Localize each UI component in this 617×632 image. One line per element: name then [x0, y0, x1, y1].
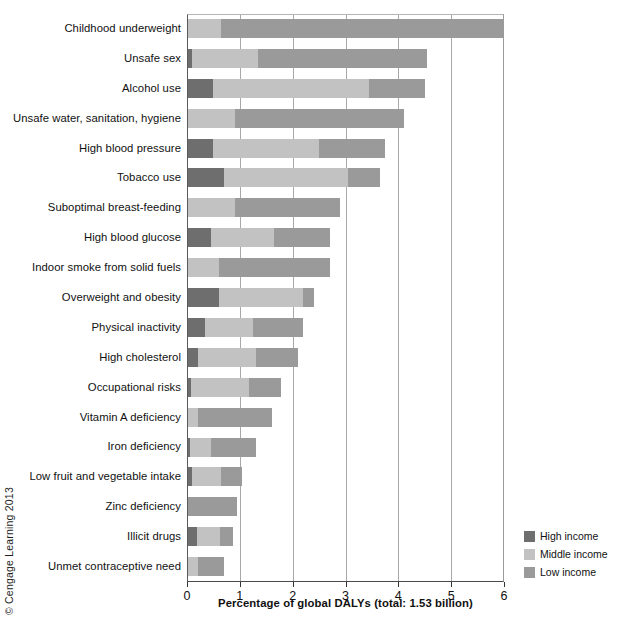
category-label: Childhood underweight [0, 22, 181, 35]
x-tick-4 [398, 582, 399, 587]
category-label: Unmet contraceptive need [0, 560, 181, 573]
legend: High incomeMiddle incomeLow income [524, 528, 614, 582]
legend-swatch-icon [524, 567, 535, 578]
legend-label: Middle income [540, 548, 608, 560]
category-label: High cholesterol [0, 351, 181, 364]
x-tick-3 [346, 582, 347, 587]
plot-area: 0123456 [187, 14, 504, 582]
category-label: Low fruit and vegetable intake [0, 470, 181, 483]
legend-label: High income [540, 530, 598, 542]
category-label: Zinc deficiency [0, 500, 181, 513]
legend-item[interactable]: Low income [524, 564, 614, 580]
x-axis-title: Percentage of global DALYs (total: 1.53 … [187, 597, 504, 609]
x-tick-6 [504, 582, 505, 587]
category-label-column: Childhood underweightUnsafe sexAlcohol u… [0, 14, 181, 582]
category-label: High blood glucose [0, 231, 181, 244]
category-label: Unsafe sex [0, 52, 181, 65]
category-label: Overweight and obesity [0, 291, 181, 304]
category-label: Tobacco use [0, 171, 181, 184]
legend-swatch-icon [524, 531, 535, 542]
category-label: Suboptimal breast-feeding [0, 201, 181, 214]
category-label: Physical inactivity [0, 321, 181, 334]
category-label: Indoor smoke from solid fuels [0, 261, 181, 274]
x-tick-5 [451, 582, 452, 587]
legend-item[interactable]: Middle income [524, 546, 614, 562]
legend-swatch-icon [524, 549, 535, 560]
copyright-notice: © Cengage Learning 2013 [2, 601, 122, 615]
category-label: High blood pressure [0, 142, 181, 155]
category-label: Iron deficiency [0, 440, 181, 453]
x-tick-2 [293, 582, 294, 587]
legend-label: Low income [540, 566, 596, 578]
category-label: Illicit drugs [0, 530, 181, 543]
x-tick-1 [240, 582, 241, 587]
chart-figure: © Cengage Learning 2013 Childhood underw… [0, 0, 617, 632]
category-label: Alcohol use [0, 82, 181, 95]
plot-border [187, 14, 504, 582]
x-tick-0 [187, 582, 188, 587]
legend-item[interactable]: High income [524, 528, 614, 544]
category-label: Unsafe water, sanitation, hygiene [0, 112, 181, 125]
category-label: Vitamin A deficiency [0, 411, 181, 424]
category-label: Occupational risks [0, 381, 181, 394]
